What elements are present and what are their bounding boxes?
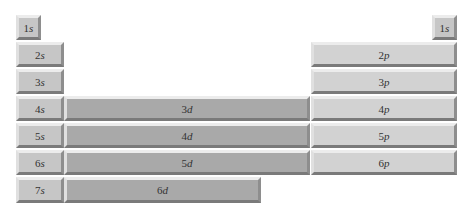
block-2s: 2s	[16, 42, 64, 67]
block-1s: 1s	[16, 15, 41, 40]
block-4s: 4s	[16, 96, 64, 121]
block-1s-l: s	[29, 22, 33, 34]
block-5d: 5d	[64, 150, 310, 175]
block-5s-l: s	[41, 130, 45, 142]
block-3s-l: s	[41, 76, 45, 88]
block-6d: 6d	[64, 177, 261, 203]
block-1s-right-l: s	[445, 22, 449, 34]
block-4p-l: p	[384, 103, 390, 115]
block-4d-l: d	[187, 130, 193, 142]
block-6p: 6p	[311, 150, 457, 175]
block-6s-l: s	[41, 157, 45, 169]
block-4s-l: s	[41, 103, 45, 115]
block-4p: 4p	[311, 96, 457, 121]
block-4d: 4d	[64, 123, 310, 148]
block-6p-l: p	[384, 157, 390, 169]
block-5d-l: d	[187, 157, 193, 169]
block-3d-l: d	[187, 103, 193, 115]
block-3s: 3s	[16, 69, 64, 94]
block-3p: 3p	[311, 69, 457, 94]
block-3d: 3d	[64, 96, 310, 121]
block-5p-l: p	[384, 130, 390, 142]
block-5s: 5s	[16, 123, 64, 148]
block-2p-l: p	[384, 49, 390, 61]
block-2s-l: s	[41, 49, 45, 61]
block-1s-right: 1s	[432, 15, 457, 40]
block-5p: 5p	[311, 123, 457, 148]
block-7s-l: s	[41, 184, 45, 196]
block-2p: 2p	[311, 42, 457, 67]
block-7s: 7s	[16, 177, 64, 203]
block-6s: 6s	[16, 150, 64, 175]
block-6d-l: d	[163, 184, 169, 196]
block-3p-l: p	[384, 76, 390, 88]
